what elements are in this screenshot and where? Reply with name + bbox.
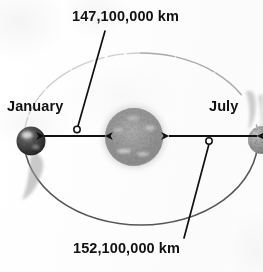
leader-line-bottom <box>184 144 209 238</box>
earth-july <box>248 126 263 154</box>
smear-left <box>22 153 43 200</box>
earth-january-highlight <box>22 131 33 138</box>
diagram-canvas <box>0 0 263 272</box>
aphelion-marker-circle <box>206 138 212 144</box>
january-position-label: January <box>7 98 63 114</box>
perihelion-distance-label: 147,100,000 km <box>72 8 179 24</box>
aphelion-distance-label: 152,100,000 km <box>73 240 180 256</box>
smear-right <box>246 91 256 130</box>
earth-january <box>17 127 46 156</box>
sun <box>103 106 165 168</box>
july-position-label: July <box>209 98 238 114</box>
leader-line-top <box>78 31 105 126</box>
earth-july-disc <box>248 126 263 154</box>
earth-january-speck <box>32 145 39 149</box>
earth-january-disc <box>17 127 46 156</box>
perihelion-marker-circle <box>74 126 80 132</box>
orbit-diagram-figure: 147,100,000 km 152,100,000 km January Ju… <box>0 0 263 272</box>
